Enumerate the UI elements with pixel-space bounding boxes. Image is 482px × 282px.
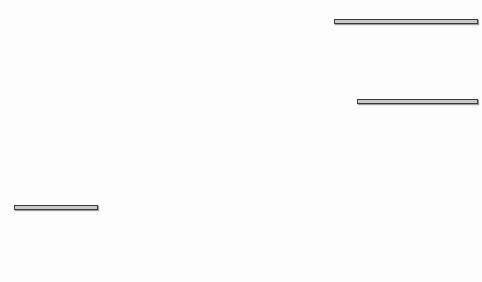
goals-panel bbox=[334, 19, 478, 24]
feature-model-diagram bbox=[0, 0, 482, 282]
legend-panel bbox=[14, 205, 98, 210]
edge-layer bbox=[0, 0, 482, 282]
constraints-panel bbox=[357, 99, 478, 104]
